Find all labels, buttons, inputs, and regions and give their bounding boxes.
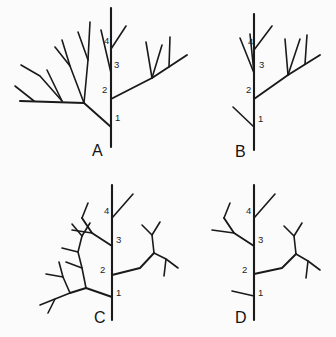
panel-c-branch-1-sub-g — [78, 236, 82, 252]
panel-c-node-4: 4 — [104, 205, 109, 216]
panel-letter-b: B — [235, 143, 246, 160]
figure-board: 1 2 3 4 A 1 2 3 4 B — [0, 0, 336, 337]
panel-d-branch-2 — [254, 254, 296, 274]
panel-c-group: 1 2 3 4 C — [40, 185, 178, 326]
panel-d-node-4: 4 — [246, 205, 251, 216]
panel-b-node-2: 2 — [246, 84, 251, 95]
panel-c-branch-2 — [112, 253, 154, 275]
panel-b-branch-2-sub-a — [285, 39, 288, 75]
panel-c-branch-3-sub-a — [72, 230, 92, 233]
panel-a-node-2: 2 — [102, 84, 107, 95]
panel-a-branch-4 — [111, 26, 126, 49]
panel-d-branch-2-sub-b — [306, 261, 308, 278]
panel-d-branch-2-sub-d — [294, 223, 302, 236]
panel-a-branch-1 — [20, 101, 111, 127]
panel-c-branch-3-sub-b — [82, 203, 88, 218]
panel-d-branch-3-sub-a — [212, 230, 234, 233]
panel-c-branch-1-sub-c — [46, 274, 70, 293]
panel-d-branch-1 — [232, 291, 254, 296]
panel-d-branch-3-sub-b — [224, 203, 230, 218]
panel-letter-d: D — [235, 309, 247, 326]
panel-letter-c: C — [94, 309, 106, 326]
panel-c-branch-2-sub-c — [142, 225, 154, 253]
panel-b-branch-2-sub-c — [305, 35, 307, 64]
panel-b-branch-4 — [254, 26, 272, 50]
panel-d-branch-2-sub-c — [284, 226, 296, 254]
panel-c-branch-4 — [112, 194, 133, 218]
panel-b-branch-1 — [233, 107, 254, 127]
panel-a-node-4: 4 — [104, 35, 109, 46]
panel-c-branch-2-sub-d — [152, 222, 160, 235]
panel-a-branch-2-sub-b — [146, 42, 152, 78]
panel-d-node-3: 3 — [258, 234, 263, 245]
panel-a-branch-2-sub-a — [169, 37, 170, 67]
panel-b-group: 1 2 3 4 B — [233, 14, 320, 160]
panel-c-node-1: 1 — [116, 287, 121, 298]
panel-c-branch-1-sub-e — [66, 262, 86, 288]
panel-c-branch-1-sub-d — [59, 262, 63, 277]
panel-c-branch-1 — [70, 288, 112, 297]
panel-d-node-1: 1 — [258, 287, 263, 298]
panel-c-node-3: 3 — [116, 234, 121, 245]
panel-a-branch-1-sub-g — [88, 22, 90, 60]
panel-a-node-1: 1 — [115, 112, 120, 123]
panel-c-node-2: 2 — [100, 264, 105, 275]
branching-diagram-svg: 1 2 3 4 A 1 2 3 4 B — [0, 0, 336, 337]
panel-d-group: 1 2 3 4 D — [212, 185, 320, 326]
panel-c-branch-2-sub-b — [164, 259, 166, 276]
panel-a-node-3: 3 — [114, 59, 119, 70]
panel-b-node-3: 3 — [259, 59, 264, 70]
panel-b-node-4: 4 — [248, 36, 253, 47]
panel-a-group: 1 2 3 4 A — [15, 8, 187, 159]
panel-d-node-2: 2 — [242, 264, 247, 275]
panel-d-branch-4 — [254, 194, 275, 218]
panel-letter-a: A — [92, 142, 103, 159]
panel-a-branch-1-sub-a — [15, 86, 34, 101]
panel-b-node-1: 1 — [258, 113, 263, 124]
